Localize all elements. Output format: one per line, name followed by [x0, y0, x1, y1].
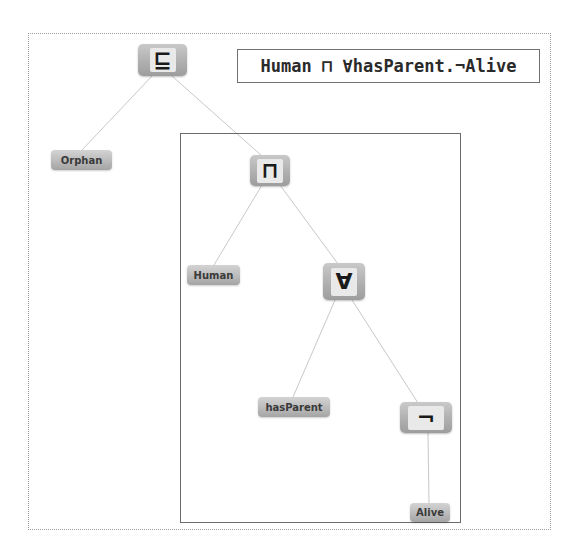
- edge-subsumes-orphan: [82, 76, 152, 150]
- subsumption-node[interactable]: ⊑: [138, 44, 187, 76]
- negation-node[interactable]: ¬: [400, 402, 452, 433]
- subsumption-icon: ⊑: [150, 48, 176, 72]
- forall-icon: ∀: [331, 268, 357, 296]
- intersection-icon: ⊓: [257, 159, 283, 183]
- formula-label: Human ⊓ ∀hasParent.¬Alive: [237, 49, 540, 83]
- intersection-node[interactable]: ⊓: [250, 155, 290, 186]
- orphan-node[interactable]: Orphan: [51, 150, 112, 170]
- forall-node[interactable]: ∀: [323, 263, 365, 300]
- negation-icon: ¬: [408, 406, 444, 430]
- alive-node[interactable]: Alive: [410, 503, 450, 522]
- concept-tree-diagram: Human ⊓ ∀hasParent.¬Alive ⊑ ⊓ ∀ ¬ Orphan…: [0, 0, 577, 555]
- human-node[interactable]: Human: [187, 265, 240, 285]
- hasparent-node[interactable]: hasParent: [258, 397, 330, 417]
- intersection-scope-box: [180, 133, 461, 523]
